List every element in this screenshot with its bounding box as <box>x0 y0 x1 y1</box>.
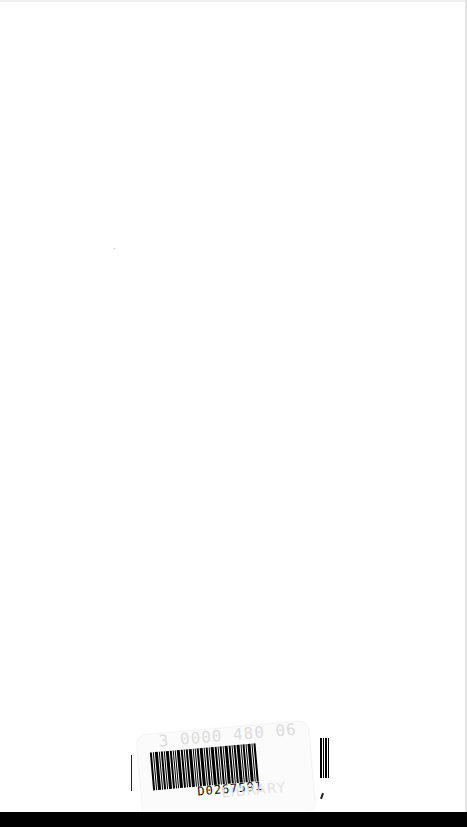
page-top-edge <box>0 0 467 2</box>
sticker-right-mark <box>320 793 324 799</box>
scan-bottom-border <box>0 812 467 827</box>
side-barcode-fragment <box>320 738 330 778</box>
scanned-page: · 3 0000 480 06 D0267591 LIBRARY <box>0 0 467 812</box>
sticker-left-mark <box>131 755 132 791</box>
scan-speck: · <box>112 248 118 252</box>
